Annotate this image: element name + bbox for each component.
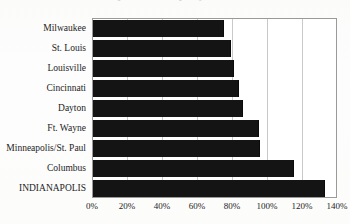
y-axis-label: Columbus: [47, 158, 86, 178]
x-axis-tick-40: 40%: [154, 200, 171, 213]
y-axis-label: Milwaukee: [43, 18, 86, 38]
x-axis-tick-80: 80%: [224, 200, 241, 213]
bar-rows: [93, 19, 336, 197]
x-axis-tick-60: 60%: [189, 200, 206, 213]
bar-louisville[interactable]: [93, 60, 234, 77]
bar-row[interactable]: [93, 59, 336, 79]
x-axis-tick-140: 140%: [327, 200, 348, 213]
bar-minneapolis-st-paul[interactable]: [93, 140, 260, 157]
bar-row[interactable]: [93, 79, 336, 99]
x-axis-tick-0: 0%: [86, 200, 98, 213]
y-axis-label: Dayton: [58, 98, 86, 118]
bar-row[interactable]: [93, 39, 336, 59]
bar-chart: MilwaukeeSt. LouisLouisvilleCincinnatiDa…: [0, 0, 350, 224]
bar-row[interactable]: [93, 119, 336, 139]
x-axis-tick-120: 120%: [292, 200, 313, 213]
bar-row[interactable]: [93, 19, 336, 39]
y-axis-label: Cincinnati: [46, 78, 86, 98]
bar-dayton[interactable]: [93, 100, 243, 117]
x-axis-tick-100: 100%: [257, 200, 278, 213]
bar-milwaukee[interactable]: [93, 20, 224, 37]
bar-row[interactable]: [93, 159, 336, 179]
y-axis-label: Ft. Wayne: [47, 118, 86, 138]
plot-area: [92, 18, 337, 198]
bar-row[interactable]: [93, 99, 336, 119]
y-axis-label: Louisville: [47, 58, 86, 78]
y-axis-label: INDIANAPOLIS: [19, 178, 86, 198]
y-axis-labels: MilwaukeeSt. LouisLouisvilleCincinnatiDa…: [0, 18, 89, 198]
y-axis-label: St. Louis: [52, 38, 86, 58]
bar-columbus[interactable]: [93, 160, 294, 177]
bar-row[interactable]: [93, 179, 336, 199]
x-axis-tick-20: 20%: [119, 200, 136, 213]
bar-ft-wayne[interactable]: [93, 120, 259, 137]
bar-st-louis[interactable]: [93, 40, 231, 57]
bar-indianapolis[interactable]: [93, 180, 325, 197]
bar-row[interactable]: [93, 139, 336, 159]
bar-cincinnati[interactable]: [93, 80, 239, 97]
y-axis-label: Minneapolis/St. Paul: [6, 138, 86, 158]
x-axis-labels: 0%20%40%60%80%100%120%140%: [0, 200, 350, 216]
